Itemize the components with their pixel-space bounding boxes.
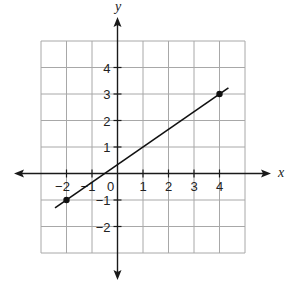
y-axis-label: y: [113, 0, 122, 14]
y-tick-label: 2: [103, 114, 110, 129]
y-tick-label: 3: [103, 87, 110, 102]
x-tick-label: 4: [216, 179, 223, 194]
y-tick-label: 4: [103, 61, 110, 76]
x-tick-label: 2: [165, 179, 172, 194]
coordinate-plane: −2−1012344321−1−2 x y: [0, 0, 298, 289]
y-tick-label: −1: [96, 193, 111, 208]
x-tick-label: 0: [107, 179, 114, 194]
data-point: [63, 197, 69, 203]
data-point: [216, 91, 222, 97]
x-axis-label: x: [277, 165, 285, 180]
y-tick-label: −2: [96, 220, 111, 235]
x-tick-label: −2: [55, 179, 70, 194]
x-tick-label: 3: [190, 179, 197, 194]
x-tick-label: 1: [139, 179, 146, 194]
y-tick-label: 1: [103, 140, 110, 155]
